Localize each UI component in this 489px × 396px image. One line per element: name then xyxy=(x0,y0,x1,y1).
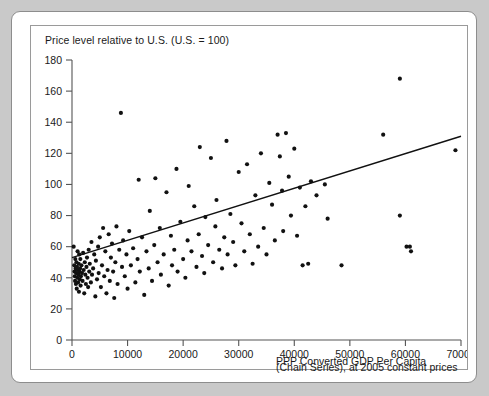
data-point xyxy=(276,133,280,137)
data-point xyxy=(120,265,124,269)
x-axis-label-line2: (Chain Series), at 2005 constant prices xyxy=(276,361,458,373)
data-point xyxy=(107,232,111,236)
data-point xyxy=(84,265,88,269)
data-point xyxy=(270,203,274,207)
data-point xyxy=(123,274,127,278)
data-point xyxy=(323,182,327,186)
data-point xyxy=(187,184,191,188)
data-point xyxy=(137,178,141,182)
data-point xyxy=(82,291,86,295)
data-point xyxy=(273,238,277,242)
data-point xyxy=(93,294,97,298)
data-point xyxy=(103,249,107,253)
data-point xyxy=(209,156,213,160)
data-point xyxy=(303,204,307,208)
data-point xyxy=(169,234,173,238)
data-point xyxy=(79,263,83,267)
y-tick-label: 60 xyxy=(50,240,62,252)
data-point xyxy=(144,249,148,253)
data-point xyxy=(197,232,201,236)
data-point xyxy=(109,255,113,259)
data-point xyxy=(237,170,241,174)
data-point xyxy=(136,257,140,261)
data-point xyxy=(301,263,305,267)
data-point xyxy=(228,212,232,216)
y-tick-label: 20 xyxy=(50,303,62,315)
data-point xyxy=(211,260,215,264)
data-point xyxy=(94,259,98,263)
data-point xyxy=(80,279,84,283)
data-point xyxy=(339,263,343,267)
data-point xyxy=(248,232,252,236)
data-point xyxy=(116,282,120,286)
axes-group xyxy=(72,60,461,340)
data-point xyxy=(186,238,190,242)
data-point xyxy=(253,193,257,197)
data-point xyxy=(409,249,413,253)
y-axis-ticks: 020406080100120140160180 xyxy=(44,54,72,346)
data-point xyxy=(287,175,291,179)
data-point xyxy=(148,209,152,213)
data-point xyxy=(111,269,115,273)
data-point xyxy=(89,240,93,244)
data-point xyxy=(259,151,263,155)
data-point xyxy=(267,181,271,185)
data-point xyxy=(85,255,89,259)
data-point xyxy=(117,248,121,252)
y-tick-label: 100 xyxy=(44,178,62,190)
data-point xyxy=(127,229,131,233)
data-point xyxy=(183,276,187,280)
data-point xyxy=(226,252,230,256)
data-point xyxy=(88,262,92,266)
data-point xyxy=(104,291,108,295)
data-point xyxy=(278,154,282,158)
data-point xyxy=(77,290,81,294)
data-point xyxy=(106,268,110,272)
data-point xyxy=(72,245,76,249)
data-point xyxy=(181,257,185,261)
data-point xyxy=(147,266,151,270)
data-point xyxy=(133,280,137,284)
data-point xyxy=(153,176,157,180)
data-point xyxy=(202,271,206,275)
data-point xyxy=(164,190,168,194)
scatter-plot-svg: 020406080100120140160180 010000200003000… xyxy=(31,26,467,369)
data-point xyxy=(138,269,142,273)
data-point xyxy=(222,235,226,239)
data-point xyxy=(126,287,130,291)
data-point xyxy=(176,269,180,273)
data-point xyxy=(114,224,118,228)
data-point xyxy=(192,204,196,208)
data-point xyxy=(87,269,91,273)
data-point xyxy=(167,283,171,287)
data-point xyxy=(262,226,266,230)
data-point xyxy=(90,273,94,277)
data-point xyxy=(96,245,100,249)
data-point xyxy=(233,263,237,267)
data-point xyxy=(172,248,176,252)
data-point xyxy=(231,240,235,244)
data-point xyxy=(198,145,202,149)
data-point xyxy=(78,257,82,261)
data-point xyxy=(281,229,285,233)
data-point xyxy=(92,252,96,256)
data-point xyxy=(256,245,260,249)
data-point xyxy=(326,217,330,221)
chart-panel: Price level relative to U.S. (U.S. = 100… xyxy=(30,25,468,370)
data-point xyxy=(245,162,249,166)
data-point xyxy=(213,224,217,228)
data-point xyxy=(292,147,296,151)
data-point xyxy=(170,263,174,267)
data-point xyxy=(214,198,218,202)
data-point xyxy=(159,273,163,277)
data-point xyxy=(85,276,89,280)
data-point xyxy=(174,167,178,171)
data-point xyxy=(119,111,123,115)
data-point xyxy=(83,260,87,264)
figure-outer-frame: Price level relative to U.S. (U.S. = 100… xyxy=(11,11,477,383)
data-point xyxy=(124,252,128,256)
y-tick-label: 80 xyxy=(50,209,62,221)
y-tick-label: 120 xyxy=(44,147,62,159)
data-point xyxy=(289,213,293,217)
data-point xyxy=(398,77,402,81)
